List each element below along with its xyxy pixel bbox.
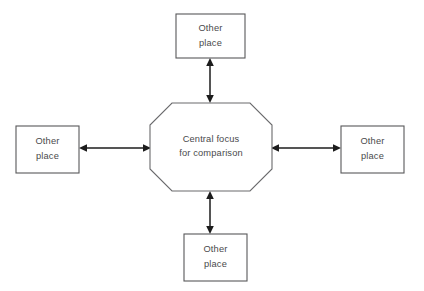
other-place-bottom-label-line1: Other <box>203 244 227 254</box>
other-place-left-label-line1: Other <box>35 136 59 146</box>
connector-right-arrowhead-right <box>333 144 341 152</box>
other-place-left-box <box>16 126 79 173</box>
other-place-right-label-line2: place <box>361 151 384 161</box>
connector-right <box>271 144 341 152</box>
central-focus-label-line2: for comparison <box>179 148 243 158</box>
central-focus-label-line1: Central focus <box>183 134 240 144</box>
other-place-node-right[interactable]: Other place <box>341 126 404 173</box>
comparison-diagram: Central focus for comparison Other place… <box>0 0 424 291</box>
other-place-bottom-label-line2: place <box>204 259 227 269</box>
connector-left <box>79 144 151 152</box>
connector-left-arrowhead-left <box>79 144 87 152</box>
other-place-right-label-line1: Other <box>360 136 384 146</box>
connector-top-arrowhead-up <box>206 58 214 66</box>
connector-top-arrowhead-down <box>206 95 214 103</box>
connector-top <box>206 58 214 103</box>
other-place-right-box <box>341 126 404 173</box>
connector-bottom <box>206 191 214 234</box>
other-place-left-label-line2: place <box>36 151 59 161</box>
other-place-top-box <box>176 14 245 58</box>
other-place-top-label-line1: Other <box>198 23 222 33</box>
other-place-node-bottom[interactable]: Other place <box>184 234 247 281</box>
diagram-canvas: Central focus for comparison Other place… <box>0 0 424 291</box>
other-place-node-top[interactable]: Other place <box>176 14 245 58</box>
connector-bottom-arrowhead-down <box>206 226 214 234</box>
central-focus-node[interactable]: Central focus for comparison <box>150 103 272 191</box>
connector-bottom-arrowhead-up <box>206 191 214 199</box>
other-place-bottom-box <box>184 234 247 281</box>
other-place-top-label-line2: place <box>199 38 222 48</box>
other-place-node-left[interactable]: Other place <box>16 126 79 173</box>
